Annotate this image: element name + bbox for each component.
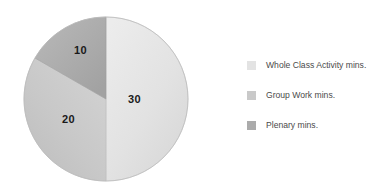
legend-item-whole-class-activity[interactable]: Whole Class Activity mins.	[247, 60, 387, 70]
legend-label-whole-class-activity: Whole Class Activity mins.	[266, 60, 366, 70]
legend-swatch-icon-plenary	[247, 121, 256, 130]
pie-slice-label-group-work: 20	[62, 113, 75, 125]
legend-label-group-work: Group Work mins.	[266, 90, 335, 100]
legend-swatch-icon-group-work	[247, 91, 256, 100]
legend-item-group-work[interactable]: Group Work mins.	[247, 90, 387, 100]
chart-legend: Whole Class Activity mins. Group Work mi…	[247, 60, 387, 130]
legend-item-plenary[interactable]: Plenary mins.	[247, 120, 387, 130]
pie-slice-label-plenary: 10	[74, 44, 87, 56]
legend-label-plenary: Plenary mins.	[266, 120, 318, 130]
pie-chart	[22, 15, 190, 183]
legend-swatch-icon-whole-class-activity	[247, 61, 256, 70]
pie-chart-figure: 30 20 10 Whole Class Activity mins. Grou…	[0, 0, 389, 194]
pie-chart-svg	[22, 15, 190, 183]
pie-slice-whole-class-activity[interactable]	[106, 17, 188, 181]
pie-slice-label-whole-class-activity: 30	[128, 93, 141, 105]
